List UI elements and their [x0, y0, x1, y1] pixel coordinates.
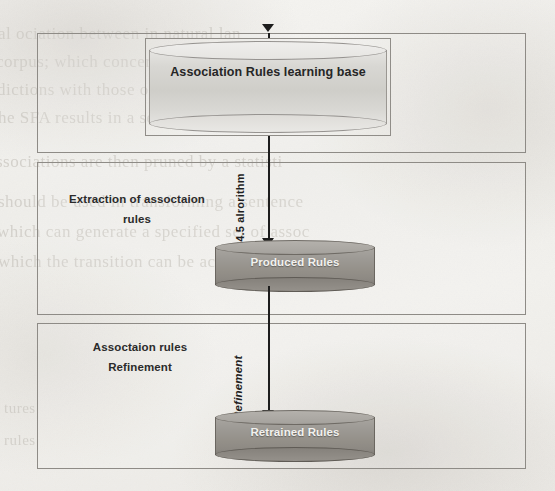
node-retrained-rules: Retrained Rules	[215, 410, 375, 462]
node-label-learning-base: Association Rules learning base	[149, 65, 387, 79]
section-label-refinement-line2: Refinement	[60, 358, 220, 378]
section-box-extraction	[37, 162, 526, 315]
cylinder-body	[149, 50, 387, 124]
section-label-refinement-line1: Assoctaion rules	[60, 338, 220, 358]
arrow-line-c45	[268, 136, 270, 246]
node-label-retrained-rules: Retrained Rules	[215, 426, 375, 438]
section-label-extraction: Extraction of assoctaion rules	[52, 190, 222, 229]
node-produced-rules: Produced Rules	[215, 240, 375, 292]
cylinder-top-ellipse	[149, 41, 387, 60]
cylinder-bottom-ellipse	[215, 277, 375, 292]
section-label-extraction-line1: Extraction of assoctaion	[52, 190, 222, 210]
arrow-head-input-icon	[262, 24, 274, 32]
section-label-extraction-line2: rules	[52, 210, 222, 230]
node-learning-base: Association Rules learning base	[149, 41, 387, 133]
cylinder-bottom-ellipse	[215, 447, 375, 462]
node-label-produced-rules: Produced Rules	[215, 256, 375, 268]
process-diagram: Extraction of assoctaion rules Assoctaio…	[0, 0, 555, 491]
cylinder-top-ellipse	[215, 410, 375, 425]
cylinder-top-ellipse	[215, 240, 375, 255]
section-label-refinement: Assoctaion rules Refinement	[60, 338, 220, 377]
arrow-line-refinement	[268, 286, 270, 418]
cylinder-bottom-ellipse	[149, 114, 387, 133]
scanned-page: al ociation between in natural lan corpu…	[0, 0, 555, 491]
edge-label-c45: C4.5 alrorithm	[234, 173, 246, 250]
